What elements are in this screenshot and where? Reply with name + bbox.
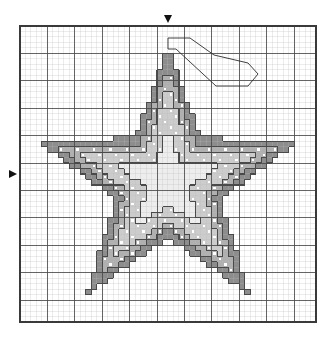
stitch-cell bbox=[168, 152, 174, 158]
stitch-cell bbox=[190, 190, 196, 196]
stitch-cell bbox=[97, 273, 103, 279]
stitch-symbol bbox=[142, 230, 144, 232]
stitch-cell bbox=[206, 152, 212, 158]
stitch-symbol bbox=[60, 148, 62, 150]
stitch-cell bbox=[173, 196, 179, 202]
stitch-cell bbox=[102, 234, 108, 240]
stitch-symbol bbox=[219, 225, 221, 227]
stitch-symbol bbox=[164, 121, 166, 123]
stitch-symbol bbox=[131, 252, 133, 254]
stitch-cell bbox=[108, 267, 114, 273]
stitch-cell bbox=[173, 179, 179, 185]
stitch-symbol bbox=[109, 263, 111, 265]
stitch-cell bbox=[261, 147, 267, 153]
stitch-symbol bbox=[230, 154, 232, 156]
stitch-symbol bbox=[175, 148, 177, 150]
stitch-symbol bbox=[153, 159, 155, 161]
stitch-cell bbox=[163, 229, 169, 235]
stitch-cell bbox=[195, 229, 201, 235]
stitch-cell bbox=[152, 218, 158, 224]
stitch-cell bbox=[130, 223, 136, 229]
stitch-symbol bbox=[159, 148, 161, 150]
stitch-symbol bbox=[203, 192, 205, 194]
stitch-symbol bbox=[120, 258, 122, 260]
stitch-cell bbox=[146, 196, 152, 202]
stitch-symbol bbox=[197, 154, 199, 156]
stitch-cell bbox=[163, 207, 169, 213]
stitch-cell bbox=[195, 136, 201, 142]
stitch-cell bbox=[124, 152, 130, 158]
stitch-cell bbox=[163, 92, 169, 98]
cross-stitch-chart bbox=[0, 0, 332, 339]
stitch-symbol bbox=[126, 148, 128, 150]
stitch-cell bbox=[141, 174, 147, 180]
stitch-symbol bbox=[131, 203, 133, 205]
stitch-cell bbox=[119, 152, 125, 158]
stitch-symbol bbox=[197, 203, 199, 205]
stitch-cell bbox=[141, 212, 147, 218]
stitch-symbol bbox=[208, 198, 210, 200]
stitch-cell bbox=[190, 152, 196, 158]
stitch-cell bbox=[168, 163, 174, 169]
stitch-cell bbox=[163, 125, 169, 131]
stitch-cell bbox=[163, 158, 169, 164]
stitch-symbol bbox=[137, 241, 139, 243]
stitch-symbol bbox=[82, 154, 84, 156]
stitch-symbol bbox=[126, 198, 128, 200]
stitch-symbol bbox=[131, 236, 133, 238]
stitch-cell bbox=[190, 169, 196, 175]
stitch-cell bbox=[146, 169, 152, 175]
stitch-cell bbox=[119, 234, 125, 240]
stitch-cell bbox=[119, 229, 125, 235]
stitch-cell bbox=[157, 179, 163, 185]
stitch-symbol bbox=[76, 148, 78, 150]
stitch-cell bbox=[212, 174, 218, 180]
stitch-cell bbox=[152, 190, 158, 196]
stitch-cell bbox=[239, 152, 245, 158]
stitch-cell bbox=[108, 256, 114, 262]
stitch-cell bbox=[201, 136, 207, 142]
stitch-cell bbox=[190, 163, 196, 169]
stitch-cell bbox=[146, 174, 152, 180]
stitch-symbol bbox=[159, 230, 161, 232]
stitch-symbol bbox=[170, 209, 172, 211]
stitch-symbol bbox=[98, 154, 100, 156]
stitch-cell bbox=[130, 136, 136, 142]
stitch-cell bbox=[152, 229, 158, 235]
stitch-cell bbox=[124, 240, 130, 246]
stitch-cell bbox=[152, 147, 158, 153]
stitch-cell bbox=[163, 108, 169, 114]
stitch-cell bbox=[179, 201, 185, 207]
stitch-cell bbox=[53, 141, 59, 147]
stitch-cell bbox=[163, 190, 169, 196]
stitch-symbol bbox=[241, 148, 243, 150]
stitch-cell bbox=[163, 169, 169, 175]
stitch-cell bbox=[152, 163, 158, 169]
stitch-symbol bbox=[219, 159, 221, 161]
stitch-cell bbox=[108, 240, 114, 246]
stitch-symbol bbox=[219, 241, 221, 243]
stitch-cell bbox=[261, 158, 267, 164]
stitch-cell bbox=[223, 169, 229, 175]
stitch-cell bbox=[179, 196, 185, 202]
stitch-cell bbox=[206, 163, 212, 169]
stitch-cell bbox=[91, 278, 97, 284]
stitch-cell bbox=[141, 163, 147, 169]
stitch-symbol bbox=[109, 148, 111, 150]
stitch-cell bbox=[152, 212, 158, 218]
stitch-cell bbox=[141, 201, 147, 207]
stitch-cell bbox=[135, 130, 141, 136]
stitch-symbol bbox=[126, 230, 128, 232]
stitch-cell bbox=[173, 169, 179, 175]
stitch-symbol bbox=[219, 176, 221, 178]
stitch-cell bbox=[190, 185, 196, 191]
stitch-cell bbox=[157, 190, 163, 196]
stitch-symbol bbox=[148, 219, 150, 221]
stitch-symbol bbox=[181, 137, 183, 139]
stitch-cell bbox=[97, 158, 103, 164]
stitch-cell bbox=[157, 196, 163, 202]
stitch-cell bbox=[173, 163, 179, 169]
stitch-cell bbox=[152, 169, 158, 175]
stitch-cell bbox=[201, 234, 207, 240]
stitch-symbol bbox=[131, 154, 133, 156]
